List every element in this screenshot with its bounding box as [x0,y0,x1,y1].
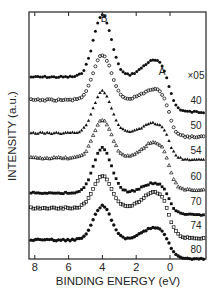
peak-label-a: A [159,66,166,77]
series-label: 50 [190,120,202,131]
x-tick-label: 4 [99,261,105,273]
spectra-plot: ×0540505460707480 B A 86420 BINDING ENER… [0,0,221,302]
series-label: 70 [190,196,202,207]
x-tick-label: 2 [133,261,139,273]
series-label: 40 [190,95,202,106]
series-label: ×05 [188,70,205,81]
series-label: 54 [190,145,202,156]
spectra-curves [29,13,205,261]
x-tick-label: 0 [167,261,173,273]
x-tick-label: 8 [32,261,38,273]
x-axis-label: BINDING ENERGY (eV) [56,275,181,287]
spectrum-series [29,118,205,191]
x-tick-label: 6 [66,261,72,273]
series-label: 80 [190,244,202,255]
peak-label-b: B [101,13,108,24]
series-labels: ×0540505460707480 [188,70,205,255]
series-label: 60 [190,171,202,182]
y-axis-label: INTENSITY (a.u.) [6,91,18,181]
series-label: 74 [190,220,202,231]
spectrum-series [30,54,206,139]
